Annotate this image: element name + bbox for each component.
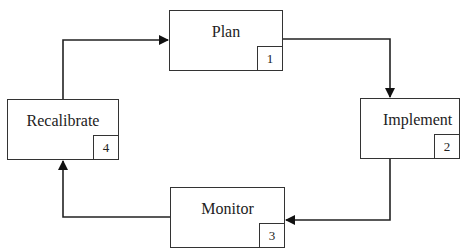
arrow-implement-to-monitor [286,159,390,220]
step-box-implement: Implement 2 [360,98,460,159]
step-number: 3 [259,223,285,248]
step-number: 1 [257,46,283,71]
step-label: Monitor [171,200,284,218]
step-number: 4 [93,135,119,160]
arrow-plan-to-implement [283,39,390,97]
step-label: Implement [361,111,459,129]
arrow-monitor-to-recalibrate [63,161,170,217]
step-box-recalibrate: Recalibrate 4 [7,99,119,160]
step-label: Recalibrate [8,112,118,130]
step-box-monitor: Monitor 3 [170,187,285,248]
arrow-recalibrate-to-plan [63,40,168,99]
step-box-plan: Plan 1 [169,10,283,71]
step-label: Plan [170,23,282,41]
step-number: 2 [434,134,460,159]
